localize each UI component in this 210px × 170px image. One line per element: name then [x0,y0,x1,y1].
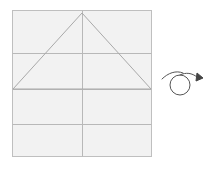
app-root: Geometry Drawing Canvas Square canvas wi… [0,0,210,170]
gesture-loop-circle [170,75,190,95]
arrowhead-icon [196,73,203,81]
loop-gesture-trail [162,72,203,95]
drawing-surface[interactable] [0,0,210,170]
